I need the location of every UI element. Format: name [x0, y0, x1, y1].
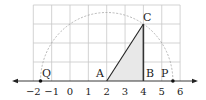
- geometry-diagram: Q A B P C −2 −1 0 1 2 3 4 5 6: [0, 0, 206, 100]
- tick-label: 6: [177, 86, 183, 97]
- tick-label: 2: [104, 86, 110, 97]
- tick-labels: −2 −1 0 1 2 3 4 5 6: [26, 86, 183, 97]
- tick-label: 0: [67, 86, 73, 97]
- arrow-left-icon: [12, 79, 18, 83]
- label-Q: Q: [42, 67, 51, 80]
- tick-label: 5: [159, 86, 165, 97]
- label-A: A: [95, 67, 105, 80]
- tick-label: 1: [85, 86, 91, 97]
- point-P: [171, 79, 175, 83]
- label-C: C: [143, 11, 151, 24]
- label-B: B: [146, 67, 154, 80]
- tick-label: 3: [122, 86, 128, 97]
- tick-label: 4: [140, 86, 146, 97]
- tick-label: −2: [26, 86, 41, 97]
- tick-label: −1: [44, 86, 59, 97]
- arrow-right-icon: [192, 79, 198, 83]
- label-P: P: [161, 67, 169, 80]
- grid: [33, 5, 180, 81]
